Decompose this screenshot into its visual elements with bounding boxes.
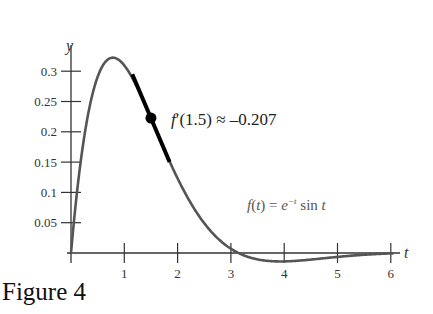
x-tick-label: 5 xyxy=(334,266,341,280)
figure-chart: 1234560.050.10.150.20.250.3 y t f′(1.5) … xyxy=(0,0,433,280)
y-axis-label: y xyxy=(64,37,74,55)
x-tick-label: 1 xyxy=(121,266,128,280)
y-tick-label: 0.25 xyxy=(34,94,57,109)
function-curve xyxy=(71,58,393,262)
function-formula: f(t) = e−t sin t xyxy=(247,196,327,214)
x-tick-label: 4 xyxy=(281,266,288,280)
y-tick-label: 0.2 xyxy=(41,124,57,139)
x-tick-label: 6 xyxy=(388,266,395,280)
y-tick-label: 0.15 xyxy=(34,155,57,170)
x-tick-label: 3 xyxy=(228,266,235,280)
figure-caption: Figure 4 xyxy=(2,278,86,306)
axes xyxy=(67,45,400,263)
y-tick-label: 0.05 xyxy=(34,215,57,230)
ticks: 1234560.050.10.150.20.250.3 xyxy=(34,64,394,280)
y-tick-label: 0.1 xyxy=(41,185,57,200)
x-tick-label: 2 xyxy=(174,266,181,280)
derivative-annotation: f′(1.5) ≈ –0.207 xyxy=(171,110,277,129)
y-tick-label: 0.3 xyxy=(41,64,57,79)
tangent-point xyxy=(145,113,156,124)
x-axis-label: t xyxy=(404,244,409,261)
